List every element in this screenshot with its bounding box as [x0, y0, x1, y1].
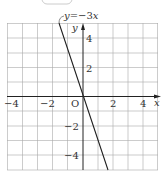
x-tick-4: 4: [140, 98, 146, 109]
x-axis-label: x: [154, 97, 160, 108]
y-tick-neg4: −4: [64, 150, 79, 161]
x-tick-2: 2: [110, 98, 116, 109]
y-axis-label: y: [71, 22, 78, 33]
x-tick-neg2: −2: [40, 98, 55, 109]
equation-label: y=−3x: [63, 10, 99, 21]
y-tick-4: 4: [86, 33, 92, 44]
y-tick-2: 2: [86, 63, 92, 74]
y-axis-arrow-icon: [81, 23, 85, 30]
x-tick-neg4: −4: [4, 98, 19, 109]
graph: y=−3x y x O −4 −2 2 4 4 2 −2 −4: [0, 0, 163, 175]
origin-label: O: [71, 98, 79, 109]
y-tick-neg2: −2: [64, 121, 79, 132]
axes: [7, 27, 157, 170]
top-tab: [42, 0, 72, 4]
